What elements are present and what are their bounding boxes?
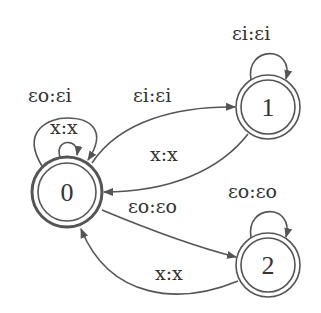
- transducer-diagram: 0 1 2 εo:εi x:x εi:εi x:x εi:εi εo:εo x:…: [0, 0, 321, 313]
- edge-0-0-inner: [59, 142, 77, 157]
- edge-2-2: [250, 212, 287, 238]
- edge-label-0-1: εi:εi: [133, 84, 171, 106]
- state-1: 1: [236, 75, 300, 139]
- edge-0-2: [102, 210, 236, 257]
- edge-label-2-2: εo:εo: [228, 180, 277, 202]
- edge-1-1: [250, 54, 287, 80]
- state-2: 2: [236, 233, 300, 297]
- edge-label-1-1: εi:εi: [232, 22, 270, 44]
- edge-label-1-0: x:x: [150, 143, 178, 165]
- state-0-label: 0: [61, 178, 74, 207]
- edge-label-0-2: εo:εo: [128, 195, 177, 217]
- edge-label-0-0-inner: x:x: [50, 116, 78, 138]
- state-1-label: 1: [262, 93, 275, 122]
- state-0: 0: [32, 157, 102, 227]
- edge-label-0-0-outer: εo:εi: [28, 84, 72, 106]
- state-2-label: 2: [262, 251, 275, 280]
- edge-label-2-0: x:x: [155, 262, 183, 284]
